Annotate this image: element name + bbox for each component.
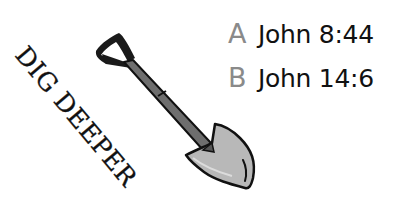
reference-letter-b: B <box>228 62 258 93</box>
reference-b: B John 14:6 <box>228 62 374 106</box>
reference-a: A John 8:44 <box>228 18 374 62</box>
reference-letter-a: A <box>228 18 258 49</box>
reference-text-a: John 8:44 <box>258 20 374 49</box>
dig-deeper-graphic: DIG DEEPER A John 8:44 B John 14:6 <box>0 0 417 214</box>
scripture-references: A John 8:44 B John 14:6 <box>228 18 374 106</box>
reference-text-b: John 14:6 <box>258 64 374 93</box>
